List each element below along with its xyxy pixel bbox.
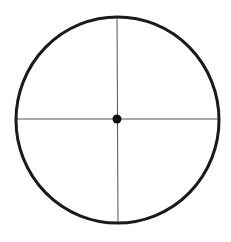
circle-diagram (0, 0, 231, 242)
center-point (113, 115, 122, 124)
